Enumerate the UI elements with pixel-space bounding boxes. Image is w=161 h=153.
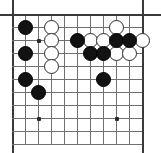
stone-black (96, 46, 111, 61)
grid-line-horizontal (0, 14, 161, 16)
stone-black (31, 85, 46, 100)
goban-grid (0, 0, 161, 153)
stone-black (122, 33, 137, 48)
stone-white (135, 33, 150, 48)
grid-line-vertical (142, 0, 144, 153)
star-point (37, 117, 41, 121)
stone-black (18, 20, 33, 35)
grid-line-horizontal (12, 66, 142, 67)
star-point (37, 39, 41, 43)
grid-line-horizontal (12, 118, 142, 119)
stone-black (18, 72, 33, 87)
grid-line-horizontal (12, 105, 142, 106)
grid-line-horizontal (12, 144, 142, 145)
go-board-figure (0, 0, 161, 153)
stone-white (44, 59, 59, 74)
stone-black (18, 46, 33, 61)
stone-black (96, 72, 111, 87)
grid-line-horizontal (12, 131, 142, 132)
stone-black (70, 33, 85, 48)
stone-white (122, 46, 137, 61)
star-point (115, 117, 119, 121)
